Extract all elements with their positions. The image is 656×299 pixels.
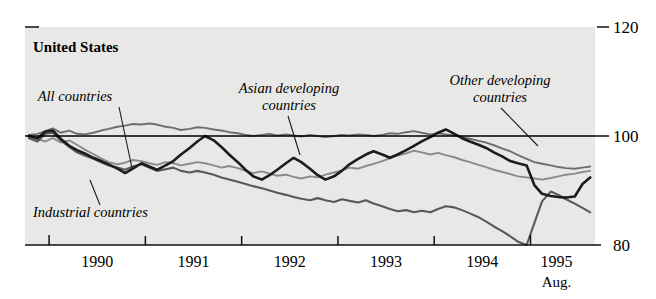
y-axis-labels: 80100120: [613, 18, 639, 255]
x-tick-label-1992: 1992: [274, 253, 306, 270]
y-tick-label-120: 120: [613, 18, 639, 37]
x-tick-label-1995: 1995: [540, 253, 572, 270]
y-tick-label-80: 80: [613, 236, 630, 255]
x-tick-label-1994: 1994: [466, 253, 498, 270]
annotation-other-developing-countries-line1: Other developing: [449, 72, 550, 88]
x-tick-label-1991: 1991: [177, 253, 209, 270]
page-title: United States: [33, 39, 119, 55]
annotation-industrial-countries: Industrial countries: [32, 204, 148, 220]
annotation-all-countries: All countries: [37, 88, 113, 104]
x-tick-label-1990: 1990: [81, 253, 113, 270]
x-axis-end-note: Aug.: [542, 274, 572, 290]
annotation-asian-developing-countries-line1: Asian developing: [238, 80, 339, 96]
annotation-other-developing-countries-line2: countries: [473, 89, 527, 105]
line-chart-svg: 80100120 199019911992199319941995 United…: [0, 0, 656, 299]
chart-figure: 80100120 199019911992199319941995 United…: [0, 0, 656, 299]
y-tick-label-100: 100: [613, 127, 639, 146]
x-axis-labels: 199019911992199319941995: [81, 253, 572, 270]
annotation-asian-developing-countries-line2: countries: [262, 97, 316, 113]
x-tick-label-1993: 1993: [370, 253, 402, 270]
